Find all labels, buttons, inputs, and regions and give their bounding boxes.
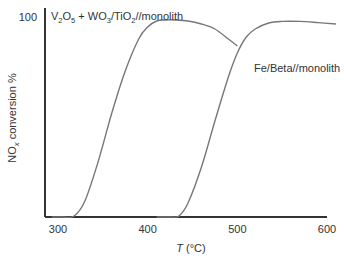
y-label-part: NO bbox=[6, 146, 18, 163]
label-part: //monolith bbox=[135, 10, 183, 22]
axes: 300400500600100 bbox=[19, 8, 337, 235]
label-part: Fe/Beta//monolith bbox=[254, 62, 340, 74]
series-line-0 bbox=[52, 20, 238, 218]
series-label-v2o5: V2O5 + WO3/TiO2//monolith bbox=[51, 10, 183, 25]
label-part: /TiO bbox=[111, 10, 132, 22]
x-tick-label: 400 bbox=[138, 223, 156, 235]
x-axis-label: T (°C) bbox=[176, 242, 205, 254]
label-part: + WO bbox=[75, 10, 107, 22]
x-tick-label: 500 bbox=[228, 223, 246, 235]
x-tick-label: 300 bbox=[49, 223, 67, 235]
series-label-fe-beta: Fe/Beta//monolith bbox=[254, 62, 340, 74]
y-axis-label: NOx conversion % bbox=[6, 73, 21, 163]
x-label-unit: (°C) bbox=[183, 242, 206, 254]
series-group bbox=[52, 20, 336, 218]
series-line-1 bbox=[157, 21, 336, 217]
x-tick-label: 600 bbox=[318, 223, 336, 235]
y-label-part: conversion % bbox=[6, 73, 18, 142]
chart: 300400500600100 V2O5 + WO3/TiO2//monolit… bbox=[0, 0, 344, 261]
y-tick-label: 100 bbox=[19, 11, 37, 23]
